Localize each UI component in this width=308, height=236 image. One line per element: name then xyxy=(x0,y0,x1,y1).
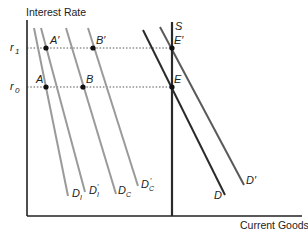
curve-DC xyxy=(66,28,116,194)
label-DC: D C xyxy=(118,184,132,198)
svg-text:C: C xyxy=(149,185,155,192)
label-A: A xyxy=(35,73,43,85)
label-DI: D I xyxy=(72,187,82,201)
label-D: D xyxy=(214,189,222,201)
svg-text:I: I xyxy=(97,191,99,198)
tick-r1: r 1 xyxy=(10,41,19,56)
label-DC-prime: D C ′ xyxy=(141,177,155,192)
tick-r0: r 0 xyxy=(10,80,20,95)
point-B-prime xyxy=(90,45,95,50)
label-D-prime: D′ xyxy=(246,174,257,186)
label-E: E xyxy=(174,73,182,85)
point-B xyxy=(80,84,85,89)
point-E xyxy=(169,84,174,89)
y-axis-title: Interest Rate xyxy=(26,6,86,18)
point-A xyxy=(43,84,48,89)
curve-D xyxy=(143,30,225,195)
tick-r1-sub: 1 xyxy=(15,47,19,56)
label-S: S xyxy=(175,20,183,32)
x-axis-title: Current Goods xyxy=(240,219,308,231)
svg-text:I: I xyxy=(80,194,82,201)
curve-DC-prime xyxy=(88,28,138,186)
demand-supply-diagram: Interest Rate Current Goods r 1 r 0 A′ B… xyxy=(0,0,308,236)
label-DI-prime: D I ′ xyxy=(89,183,99,198)
svg-text:D: D xyxy=(141,178,149,190)
svg-text:D: D xyxy=(72,187,80,199)
label-E-prime: E′ xyxy=(174,34,184,46)
label-A-prime: A′ xyxy=(49,34,60,46)
point-A-prime xyxy=(43,45,48,50)
svg-text:D: D xyxy=(89,184,97,196)
label-B-prime: B′ xyxy=(96,34,106,46)
svg-text:′: ′ xyxy=(97,183,99,190)
point-E-prime xyxy=(169,45,174,50)
tick-r0-sub: 0 xyxy=(15,86,20,95)
svg-text:′: ′ xyxy=(150,177,152,184)
diagram-stage: Interest Rate Current Goods r 1 r 0 A′ B… xyxy=(0,0,308,236)
label-B: B xyxy=(86,73,93,85)
svg-text:C: C xyxy=(126,191,132,198)
svg-text:D: D xyxy=(118,184,126,196)
